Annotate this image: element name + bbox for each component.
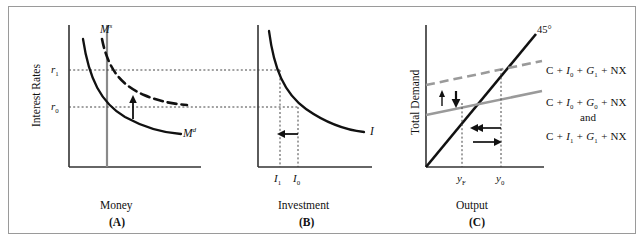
panel-a-y-axis-title: Interest Rates bbox=[31, 64, 43, 127]
money-demand-shifted-curve bbox=[102, 39, 187, 105]
panel-b-left-arrow bbox=[277, 130, 298, 138]
panel-b-letter: (B) bbox=[299, 217, 314, 229]
equation-middle: C + I0 + G0 + NX bbox=[546, 97, 626, 111]
panel-c-tick-yF: yF bbox=[457, 173, 466, 187]
panel-a-money-market: Interest Rates r1 r0 Ms Md Money (A) bbox=[9, 7, 224, 235]
panel-a-tick-r0: r0 bbox=[51, 101, 59, 115]
money-supply-label: Ms bbox=[100, 23, 112, 35]
equation-lower: C + I1 + G1 + NX bbox=[546, 131, 626, 145]
panel-a-name: Money bbox=[100, 200, 133, 212]
panel-c-name: Output bbox=[456, 200, 488, 212]
panel-a-up-arrow bbox=[129, 95, 137, 119]
equation-upper: C + I0 + G1 + NX bbox=[546, 65, 626, 79]
figure-frame: Interest Rates r1 r0 Ms Md Money (A) bbox=[8, 6, 636, 234]
panel-c-tick-y0: y0 bbox=[496, 173, 504, 187]
economics-figure: Interest Rates r1 r0 Ms Md Money (A) bbox=[0, 0, 644, 241]
money-demand-curve bbox=[83, 39, 181, 134]
money-demand-label: Md bbox=[183, 127, 196, 139]
panel-b-name: Investment bbox=[278, 200, 329, 212]
panel-c-keynesian-cross: Total Demand 45° C + I0 + G1 + NX C + I0… bbox=[394, 7, 637, 235]
upper-demand-schedule-dashed bbox=[426, 61, 542, 85]
panel-c-double-left-arrow bbox=[470, 124, 501, 132]
panel-c-graphics bbox=[394, 7, 637, 235]
panel-b-tick-I0: I0 bbox=[293, 173, 300, 187]
panel-b-tick-I1: I1 bbox=[274, 173, 281, 187]
panel-a-letter: (A) bbox=[109, 217, 125, 229]
panel-b-investment: I1 I0 I Investment (B) bbox=[224, 7, 394, 235]
equation-and-connector: and bbox=[580, 112, 596, 123]
panel-a-tick-r1: r1 bbox=[51, 64, 59, 78]
panel-c-up-arrow bbox=[439, 90, 445, 106]
panel-c-y-axis-title: Total Demand bbox=[410, 70, 422, 135]
investment-demand-curve bbox=[269, 31, 364, 132]
forty-five-degree-label: 45° bbox=[537, 25, 552, 36]
investment-curve-label: I bbox=[370, 126, 374, 138]
panel-c-letter: (C) bbox=[469, 217, 485, 229]
panel-c-right-arrow bbox=[473, 138, 502, 146]
panel-c-down-arrow bbox=[452, 91, 461, 108]
